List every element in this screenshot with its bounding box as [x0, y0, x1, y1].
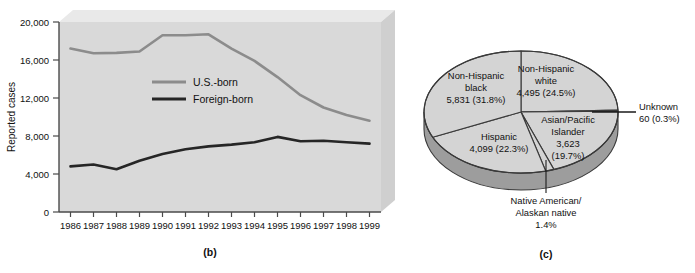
x-tick-label: 1987 — [83, 220, 104, 231]
x-tick-label: 1990 — [152, 220, 173, 231]
legend-label-foreign-born: Foreign-born — [193, 93, 253, 105]
x-tick-label: 1993 — [221, 220, 242, 231]
x-tick-label: 1986 — [60, 220, 81, 231]
pie-callout-native-american: Native American/ Alaskan native 1.4% — [511, 195, 582, 230]
plot-right-face — [381, 10, 395, 212]
pie-callout-line: Native American/ — [511, 195, 582, 206]
pie-callout-unknown: Unknown 60 (0.3%) — [639, 101, 680, 124]
pie-callout-line: 1.4% — [535, 219, 556, 230]
x-tick-label: 1991 — [175, 220, 196, 231]
x-tick-label: 1999 — [359, 220, 380, 231]
x-tick-label: 1997 — [313, 220, 334, 231]
panel-c-caption: (c) — [540, 248, 553, 260]
plot-top-face — [59, 10, 395, 22]
x-tick-label: 1992 — [198, 220, 219, 231]
pie-chart-panel: Non-Hispanic white 4,495 (24.5%) Non-His… — [420, 0, 695, 273]
y-tick-label-20000: 20,000 — [20, 17, 49, 28]
y-tick-label-0: 0 — [44, 207, 49, 218]
pie-label-line: Hispanic — [481, 131, 517, 142]
pie-label-line: Non-Hispanic — [448, 70, 505, 81]
pie-label-line: Islander — [551, 126, 584, 137]
x-tick-label: 1995 — [267, 220, 288, 231]
pie-chart-svg: Non-Hispanic white 4,495 (24.5%) Non-His… — [420, 0, 695, 273]
x-tick-label: 1996 — [290, 220, 311, 231]
y-axis-ticks — [53, 22, 59, 212]
line-chart-svg: 20,000 16,000 12,000 8,000 4,000 0 Repor… — [0, 0, 420, 273]
pie-label-line: 3,623 — [556, 138, 579, 149]
pie-callout-line: Alaskan native — [516, 207, 577, 218]
x-tick-label: 1989 — [129, 220, 150, 231]
pie-label-line: 4,099 (22.3%) — [470, 143, 529, 154]
pie-label-line: Asian/Pacific — [541, 114, 595, 125]
line-chart-panel: 20,000 16,000 12,000 8,000 4,000 0 Repor… — [0, 0, 420, 273]
y-tick-label-12000: 12,000 — [20, 93, 49, 104]
y-axis-title: Reported cases — [6, 82, 17, 152]
pie-label-line: black — [465, 82, 487, 93]
x-axis-ticks — [71, 212, 370, 217]
pie-callout-line: Unknown — [639, 101, 678, 112]
pie-label-line: (19.7%) — [552, 150, 585, 161]
pie-label-line: Non-Hispanic — [518, 63, 575, 74]
y-tick-label-16000: 16,000 — [20, 55, 49, 66]
y-tick-label-4000: 4,000 — [25, 169, 49, 180]
x-axis-tick-labels: 1986198719881989199019911992199319941995… — [60, 220, 380, 231]
pie-label-line: 4,495 (24.5%) — [517, 87, 576, 98]
figure-container: 20,000 16,000 12,000 8,000 4,000 0 Repor… — [0, 0, 695, 273]
x-tick-label: 1994 — [244, 220, 265, 231]
y-tick-label-8000: 8,000 — [25, 131, 49, 142]
panel-b-caption: (b) — [203, 246, 216, 258]
pie-callout-line: 60 (0.3%) — [639, 113, 680, 124]
plot-area — [59, 22, 381, 212]
x-tick-label: 1998 — [336, 220, 357, 231]
legend-label-us-born: U.S.-born — [193, 76, 238, 88]
pie-label-line: 5,831 (31.8%) — [447, 94, 506, 105]
pie-label-line: white — [534, 75, 557, 86]
x-tick-label: 1988 — [106, 220, 127, 231]
